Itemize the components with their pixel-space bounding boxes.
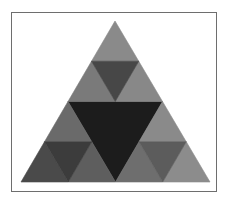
sierpinski-triangle bbox=[0, 0, 231, 205]
triangle-top-apex bbox=[92, 21, 139, 61]
